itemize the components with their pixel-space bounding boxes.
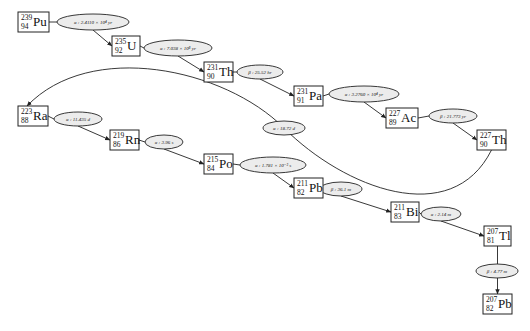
atomic-number: 84 — [207, 164, 215, 173]
nuclide-node-pb211: 21182Pb — [294, 178, 323, 198]
atomic-number: 92 — [115, 46, 123, 55]
decay-label: β : 36.1 m — [320, 182, 362, 196]
nuclide-node-pb207: 20782Pb — [483, 294, 512, 314]
nuclide-node-ra223: 22388Ra — [18, 106, 48, 126]
nuclide-node-th227: 22790Th — [477, 130, 507, 150]
decay-label: α : 3.96 s — [145, 135, 183, 149]
element-symbol: Po — [219, 156, 233, 171]
decay-label: α : 11.435 d — [54, 112, 102, 126]
nuclide-node-tl207: 20781Tl — [484, 226, 511, 246]
decay-mode-halflife: β : 21.773 yr — [439, 114, 466, 119]
atomic-number: 91 — [297, 96, 305, 105]
decay-mode-halflife: α : 1.781 × 10⁻³ s — [255, 163, 291, 168]
mass-number: 223 — [21, 107, 33, 116]
mass-number: 239 — [21, 13, 33, 22]
decay-mode-halflife: α : 3.96 s — [155, 140, 174, 145]
mass-number: 207 — [487, 227, 499, 236]
decay-mode-halflife: α : 3.2760 × 10⁴ yr — [345, 92, 384, 97]
element-symbol: Th — [219, 64, 234, 79]
element-symbol: Pb — [309, 180, 323, 195]
element-symbol: Ac — [401, 110, 416, 125]
mass-number: 207 — [486, 295, 498, 304]
decay-mode-halflife: α : 11.435 d — [66, 117, 90, 122]
atomic-number: 81 — [487, 236, 495, 245]
nuclide-node-pu239: 23994Pu — [18, 12, 49, 32]
element-symbol: Pu — [33, 14, 47, 29]
mass-number: 231 — [297, 87, 309, 96]
decay-chain-diagram: α : 2.4110 × 10⁴ yrα : 7.038 × 10⁸ yrβ :… — [0, 0, 530, 331]
decay-label: β : 25.52 hr — [237, 65, 283, 79]
atomic-number: 90 — [480, 140, 488, 149]
atomic-number: 88 — [21, 116, 29, 125]
decay-label: α : 3.2760 × 10⁴ yr — [329, 86, 399, 102]
mass-number: 211 — [297, 179, 308, 188]
decay-mode-halflife: β : 36.1 m — [330, 187, 352, 192]
element-symbol: U — [127, 38, 137, 53]
element-symbol: Ra — [33, 108, 48, 123]
mass-number: 227 — [480, 131, 492, 140]
nuclide-node-u235: 23592U — [112, 36, 140, 56]
decay-label: α : 7.038 × 10⁸ yr — [144, 40, 212, 56]
nuclide-node-po215: 21584Po — [204, 154, 233, 174]
atomic-number: 86 — [113, 140, 121, 149]
mass-number: 231 — [207, 63, 219, 72]
element-symbol: Rn — [125, 132, 141, 147]
decay-label: α : 2.14 m — [421, 207, 461, 221]
decay-label: β : 4.77 m — [476, 264, 518, 278]
nuclide-node-bi211: 21183Bi — [391, 202, 419, 222]
decay-mode-halflife: β : 25.52 hr — [247, 70, 272, 75]
mass-number: 219 — [113, 131, 125, 140]
mass-number: 211 — [394, 203, 405, 212]
element-symbol: Pb — [498, 296, 512, 311]
decay-edge-th227-ra223 — [27, 68, 492, 194]
decay-mode-halflife: β : 4.77 m — [486, 269, 508, 274]
decay-label: α : 18.72 d — [263, 121, 305, 135]
decay-mode-halflife: α : 7.038 × 10⁸ yr — [160, 46, 196, 51]
atomic-number: 82 — [297, 188, 305, 197]
nuclide-node-th231: 23190Th — [204, 62, 234, 82]
element-symbol: Th — [492, 132, 507, 147]
atomic-number: 82 — [486, 304, 494, 313]
mass-number: 235 — [115, 37, 127, 46]
element-symbol: Tl — [499, 228, 511, 243]
decay-mode-halflife: α : 2.4110 × 10⁴ yr — [74, 20, 112, 25]
decay-label: α : 1.781 × 10⁻³ s — [240, 157, 306, 173]
atomic-number: 83 — [394, 212, 402, 221]
mass-number: 215 — [207, 155, 219, 164]
nuclide-node-ac227: 22789Ac — [386, 108, 418, 128]
atomic-number: 89 — [389, 118, 397, 127]
nuclide-node-rn219: 21986Rn — [110, 130, 141, 150]
atomic-number: 90 — [207, 72, 215, 81]
element-symbol: Bi — [406, 204, 419, 219]
element-symbol: Pa — [309, 88, 322, 103]
mass-number: 227 — [389, 109, 401, 118]
atomic-number: 94 — [21, 22, 29, 31]
decay-label: α : 2.4110 × 10⁴ yr — [57, 14, 129, 30]
decay-mode-halflife: α : 2.14 m — [431, 212, 452, 217]
nuclide-node-pa231: 23191Pa — [294, 86, 323, 106]
decay-mode-halflife: α : 18.72 d — [273, 126, 295, 131]
decay-label: β : 21.773 yr — [429, 109, 477, 123]
